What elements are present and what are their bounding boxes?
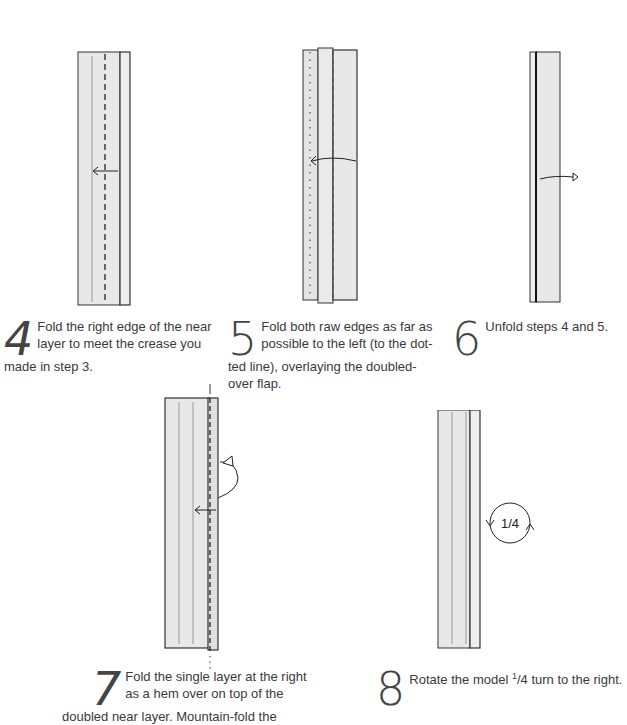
diagram-step-6 (510, 40, 590, 310)
step-text-line: Rotate the model 1/4 turn to the right. (376, 668, 626, 688)
rotation-label: 1/4 (501, 516, 519, 531)
step-number: 8 (376, 670, 405, 708)
step-7: 7 Fold the single layer at the right as … (92, 668, 352, 725)
step-text-line: ted line), overlaying the doubled- (228, 358, 438, 375)
step-number: 5 (228, 320, 257, 358)
step-text-line: doubled near layer. Mountain-fold the (62, 708, 352, 725)
diagram-step-7 (150, 380, 260, 670)
step-number: 6 (452, 320, 481, 358)
step-text-line: possible to the left (to the dot- (228, 335, 438, 352)
fraction-denominator: /4 (517, 672, 528, 687)
step-6: 6 Unfold steps 4 and 5. (452, 318, 627, 358)
step-number: 4 (4, 320, 33, 358)
step-8: 8 Rotate the model 1/4 turn to the right… (376, 668, 626, 708)
step-text-line: Fold both raw edges as far as (228, 318, 438, 335)
step-number: 7 (92, 670, 121, 708)
diagram-step-5 (290, 40, 370, 310)
diagram-step-4 (70, 40, 150, 310)
text: Rotate the model (409, 672, 512, 687)
step-text-line: Fold the single layer at the right (92, 668, 352, 685)
text: turn to the right. (528, 672, 623, 687)
step-text-line: as a hem over on top of the (92, 685, 352, 702)
diagram-step-8: 1/4 (420, 410, 550, 660)
